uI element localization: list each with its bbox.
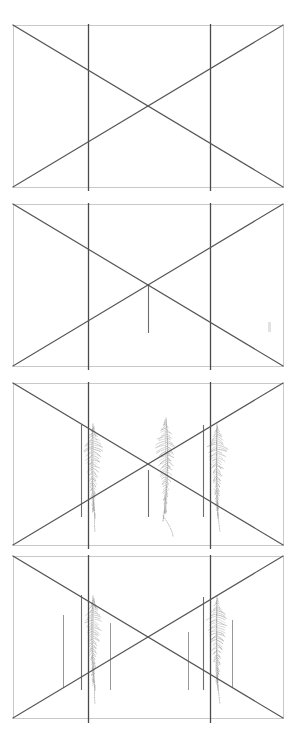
panel-2-speck-right (268, 322, 271, 332)
panel-1 (13, 24, 284, 191)
panel-2 (13, 203, 284, 370)
figure-root (0, 0, 296, 735)
panel-4 (13, 555, 284, 723)
panel-3 (13, 382, 284, 549)
perspective-panels-figure (0, 0, 296, 735)
